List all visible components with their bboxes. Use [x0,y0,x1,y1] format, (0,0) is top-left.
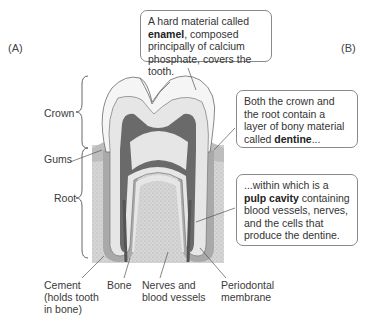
crown-brace [76,76,88,148]
label-crown: Crown [44,107,74,119]
term-pulp-cavity: pulp cavity [244,192,299,204]
label-bone: Bone [107,279,132,291]
term-dentine: dentine [274,133,311,145]
callout-dentine: Both the crown and the root contain a la… [236,90,358,148]
callout-enamel: A hard material called enamel, composed … [140,10,272,62]
label-nerves-blood-vessels: Nerves and blood vessels [142,279,206,303]
term-enamel: enamel [148,28,184,40]
label-periodontal-membrane: Periodontal membrane [221,279,274,303]
callout-pulp-cavity: ...within which is a pulp cavity contain… [236,174,358,246]
root-brace [76,148,88,258]
label-cement: Cement (holds tooth in bone) [44,279,99,315]
label-gums: Gums [44,153,72,165]
label-root: Root [54,192,76,204]
